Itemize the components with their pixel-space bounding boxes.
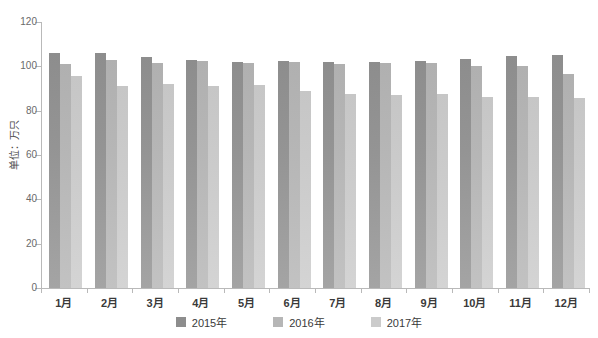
bar-chart: 单位：万只 020406080100120 1月2月3月4月5月6月7月8月9月… xyxy=(0,0,598,338)
x-axis-tick-mark xyxy=(87,288,88,293)
bar xyxy=(380,63,391,288)
bar-group xyxy=(278,22,311,288)
bar xyxy=(528,97,539,288)
x-axis-tick-label: 10月 xyxy=(463,294,486,310)
bar-group xyxy=(186,22,219,288)
x-axis-tick-label: 7月 xyxy=(329,294,346,310)
bar xyxy=(437,94,448,288)
chart-legend: 2015年2016年2017年 xyxy=(0,314,598,330)
bar xyxy=(334,64,345,288)
bar xyxy=(345,94,356,288)
x-axis-tick-label: 1月 xyxy=(55,294,72,310)
bar xyxy=(278,61,289,288)
x-axis-tick-label: 2月 xyxy=(101,294,118,310)
legend-swatch-icon xyxy=(273,317,283,327)
bar xyxy=(369,62,380,288)
x-axis-tick-mark xyxy=(224,288,225,293)
x-axis-tick-label: 11月 xyxy=(509,294,532,310)
x-axis-tick-label: 8月 xyxy=(375,294,392,310)
bar-group xyxy=(552,22,585,288)
legend-item[interactable]: 2015年 xyxy=(176,314,227,330)
x-axis-tick-label: 12月 xyxy=(555,294,578,310)
bar xyxy=(71,76,82,288)
bar-group xyxy=(506,22,539,288)
x-axis-tick-mark xyxy=(452,288,453,293)
legend-item-label: 2016年 xyxy=(289,314,324,330)
bar-group xyxy=(141,22,174,288)
bar xyxy=(208,86,219,288)
y-axis-title-label: 单位：万只 xyxy=(6,119,21,169)
bar-group xyxy=(49,22,82,288)
bar-series-layer xyxy=(41,22,589,288)
bar xyxy=(289,62,300,288)
bar xyxy=(49,53,60,288)
bar-group xyxy=(323,22,356,288)
bar xyxy=(563,74,574,288)
x-axis-tick-label: 4月 xyxy=(192,294,209,310)
y-axis-tick-label: 40 xyxy=(26,192,37,206)
x-axis-tick-label: 9月 xyxy=(421,294,438,310)
plot-area: 020406080100120 xyxy=(41,22,589,288)
bar xyxy=(471,66,482,288)
x-axis-tick-mark xyxy=(361,288,362,293)
x-axis-tick-mark xyxy=(543,288,544,293)
bar-group xyxy=(415,22,448,288)
bar xyxy=(117,86,128,288)
x-axis-tick-label: 6月 xyxy=(284,294,301,310)
x-axis-tick-mark xyxy=(41,288,42,293)
bar-group xyxy=(232,22,265,288)
bar xyxy=(141,57,152,288)
bar xyxy=(517,66,528,288)
x-axis-tick-mark xyxy=(498,288,499,293)
x-axis-tick-mark xyxy=(178,288,179,293)
x-axis-tick-mark xyxy=(315,288,316,293)
y-axis-tick-label: 0 xyxy=(31,281,37,295)
bar xyxy=(197,61,208,288)
y-axis-title: 单位：万只 xyxy=(4,0,22,288)
bar xyxy=(163,84,174,288)
legend-item-label: 2015年 xyxy=(192,314,227,330)
y-axis-tick-label: 120 xyxy=(20,15,37,29)
bar xyxy=(482,97,493,288)
bar xyxy=(95,53,106,288)
x-axis-tick-mark xyxy=(589,288,590,293)
y-axis-tick-label: 80 xyxy=(26,104,37,118)
x-axis-tick-label: 5月 xyxy=(238,294,255,310)
x-axis-tick-label: 3月 xyxy=(147,294,164,310)
bar xyxy=(243,63,254,288)
bar xyxy=(106,60,117,288)
bar-group xyxy=(460,22,493,288)
bar xyxy=(506,56,517,288)
y-axis-tick-label: 100 xyxy=(20,59,37,73)
bar xyxy=(323,62,334,288)
legend-swatch-icon xyxy=(371,317,381,327)
bar xyxy=(574,98,585,288)
x-axis: 1月2月3月4月5月6月7月8月9月10月11月12月 xyxy=(41,288,589,310)
bar-group xyxy=(95,22,128,288)
bar xyxy=(552,55,563,288)
bar xyxy=(391,95,402,288)
legend-item[interactable]: 2017年 xyxy=(371,314,422,330)
legend-item-label: 2017年 xyxy=(387,314,422,330)
y-axis-tick-label: 60 xyxy=(26,148,37,162)
x-axis-tick-mark xyxy=(269,288,270,293)
bar xyxy=(460,59,471,288)
bar-group xyxy=(369,22,402,288)
bar xyxy=(415,61,426,288)
bar xyxy=(232,62,243,288)
bar xyxy=(300,91,311,288)
bar xyxy=(254,85,265,288)
x-axis-tick-mark xyxy=(406,288,407,293)
y-axis-tick-label: 20 xyxy=(26,237,37,251)
x-axis-tick-mark xyxy=(132,288,133,293)
bar xyxy=(60,64,71,288)
bar xyxy=(152,63,163,288)
bar xyxy=(426,63,437,288)
legend-item[interactable]: 2016年 xyxy=(273,314,324,330)
legend-swatch-icon xyxy=(176,317,186,327)
bar xyxy=(186,60,197,288)
